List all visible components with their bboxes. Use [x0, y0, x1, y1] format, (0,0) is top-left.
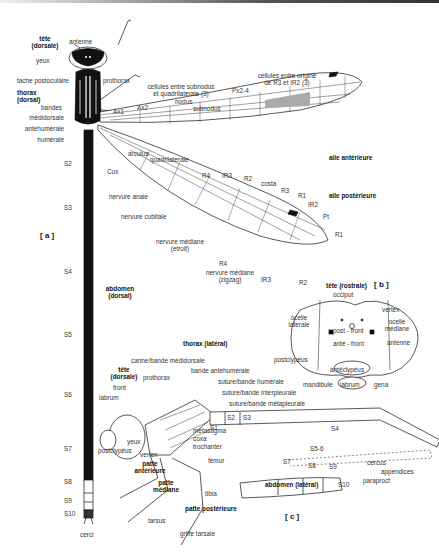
label-s8: S8	[64, 478, 72, 485]
label-nodus: nodus	[175, 98, 192, 105]
label-cercus: cercus	[367, 459, 386, 466]
label-antenne: antenne	[69, 38, 92, 45]
abdomen-dorsal	[84, 130, 93, 480]
label-medidorsale: médidorsale	[20, 114, 64, 121]
label-cerci: cerci	[80, 531, 94, 538]
label-trochanter: trochanter	[193, 443, 222, 450]
label-nervure-mediane-etroit: nervure médiane(etroit)	[150, 238, 210, 252]
label-aile-posterieure: aile postérieure	[329, 192, 376, 199]
label-suture-metapleurale: suture/bande métapleurale	[229, 400, 305, 407]
label-ax2: Ax2	[137, 104, 148, 111]
label-suture-humerale: suture/bande humérale	[218, 378, 284, 385]
label-bande-antehumerale: bande antehumérale	[191, 367, 250, 374]
label-s4-lateral: S4	[331, 425, 339, 432]
label-humerale: humérale	[20, 136, 64, 143]
label-nervure-cubitale: nervure cubitale	[121, 213, 166, 220]
label-quadrilaterale: quadrilaterale	[150, 156, 189, 163]
label-ocelle-mediane: ocellemédiane	[382, 318, 412, 332]
label-carine: carine/bande médidorsale	[131, 357, 205, 364]
label-nervure-mediane-zigzag: nervure médiane(zigzag)	[200, 269, 260, 283]
label-s7: S7	[64, 445, 72, 452]
label-s2: S2	[64, 160, 72, 167]
label-r2-top: R2	[244, 175, 252, 182]
label-post-front: post - front	[333, 327, 364, 334]
label-bandes: bandes	[20, 104, 62, 111]
label-vertex-lateral: vertex	[140, 451, 157, 458]
label-s10-lateral: S10	[338, 481, 349, 488]
label-ocelle-laterale: ocellelaterale	[284, 314, 314, 328]
label-subnodus: subnodus	[193, 105, 221, 112]
label-s7-lateral: S7	[283, 458, 291, 465]
label-s8-lateral: S8	[308, 462, 316, 469]
label-front-lateral: front	[113, 384, 126, 391]
label-vertex: vertex	[382, 306, 399, 313]
label-tache-postoculaire: tache postoculaire	[17, 77, 69, 84]
label-s1-lateral: S1	[210, 424, 218, 431]
label-s2-lateral: S2	[227, 414, 235, 421]
label-patte-anterieure: patteantérieure	[130, 460, 170, 474]
forewing	[100, 73, 362, 123]
label-paraproct: paraproct	[363, 477, 390, 484]
label-s4: S4	[64, 268, 72, 275]
label-r3: R3	[281, 187, 289, 194]
label-griffe-tarsale: griffe tarsale	[180, 530, 215, 537]
label-tarsus: tarsus	[148, 517, 165, 524]
label-ir3-top: IR3	[222, 172, 232, 179]
panel-label-c: [ c ]	[285, 513, 299, 520]
label-s3: S3	[64, 204, 72, 211]
label-prothorax-lateral: prothorax	[143, 374, 170, 381]
label-anteclypeus: antéclypéus	[330, 366, 364, 373]
label-s9: S9	[64, 497, 72, 504]
label-tete-rostrale: tête (rostrale)	[326, 282, 367, 289]
label-abdomen-dorsal: abdomen(dorsal)	[102, 285, 138, 299]
label-px2-4: Px2-4	[232, 87, 249, 94]
label-r2-bottom: R2	[299, 279, 307, 286]
label-aile-anterieure: aile antérieure	[329, 154, 372, 161]
label-tete-dorsale-lateral: tête(dorsale)	[107, 366, 141, 380]
label-tibia: tibia	[205, 490, 217, 497]
label-costa: costa	[261, 180, 276, 187]
label-labrum-lateral: labrum	[99, 394, 119, 401]
label-s9-lateral: S9	[329, 463, 337, 470]
label-s10: S10	[64, 510, 75, 517]
label-pt: Pt	[323, 213, 329, 220]
panel-label-a: [ a ]	[40, 232, 54, 239]
label-abdomen-lateral: abdomen (latéral)	[265, 481, 318, 488]
label-r1-tip: R1	[335, 231, 343, 238]
label-ir2: IR2	[308, 201, 318, 208]
label-yeux: yeux	[36, 57, 50, 64]
label-coxa: coxa	[193, 435, 207, 442]
label-arculus: arculus	[128, 150, 149, 157]
label-thorax-dorsal: thorax(dorsal)	[17, 89, 40, 103]
antenna-right	[118, 20, 131, 45]
label-thorax-lateral: thorax (latéral)	[183, 340, 227, 347]
label-s6: S6	[64, 391, 72, 398]
label-mandibule: mandibule	[303, 381, 333, 388]
label-cux: Cux	[107, 168, 118, 175]
label-tete-dorsale: tête(dorsale)	[30, 35, 60, 49]
label-antenne-rostral: antenne	[387, 339, 410, 346]
label-r4-bottom: R4	[219, 260, 227, 267]
label-s5-6-lateral: S5-6	[310, 445, 324, 452]
label-postclypeus: postclypéus	[274, 356, 308, 363]
label-nervure-anale: nervure anale	[109, 193, 148, 200]
label-ax1: Ax1	[113, 108, 124, 115]
label-yeux-lateral: yeux	[127, 438, 141, 445]
label-antehumerale: antehumérale	[20, 125, 64, 132]
label-postclypeus-lateral: postclypéus	[98, 447, 132, 454]
label-patte-mediane: pattemédiane	[148, 479, 184, 493]
label-r1-top: R1	[298, 192, 306, 199]
label-femur: fémur	[208, 457, 224, 464]
label-occiput: occiput	[333, 291, 353, 298]
label-cellules-r3-ir2: cellules entre originede R3 et IR2 (3)	[253, 72, 321, 86]
label-gena: gena	[374, 381, 388, 388]
label-prothorax: prothorax	[103, 77, 130, 84]
label-s5: S5	[64, 331, 72, 338]
label-suture-interpleurale: suture/bande interpleurale	[222, 389, 296, 396]
label-cellules-subnodus: cellules entre subnoduset quadrilaterale…	[143, 83, 219, 97]
label-s3-lateral: S3	[243, 414, 251, 421]
label-labrum-rostral: labrum	[340, 381, 360, 388]
label-ir3-bottom: IR3	[261, 276, 271, 283]
panel-label-b: [ b ]	[374, 281, 389, 288]
label-patte-posterieure: patte postérieure	[185, 505, 237, 512]
